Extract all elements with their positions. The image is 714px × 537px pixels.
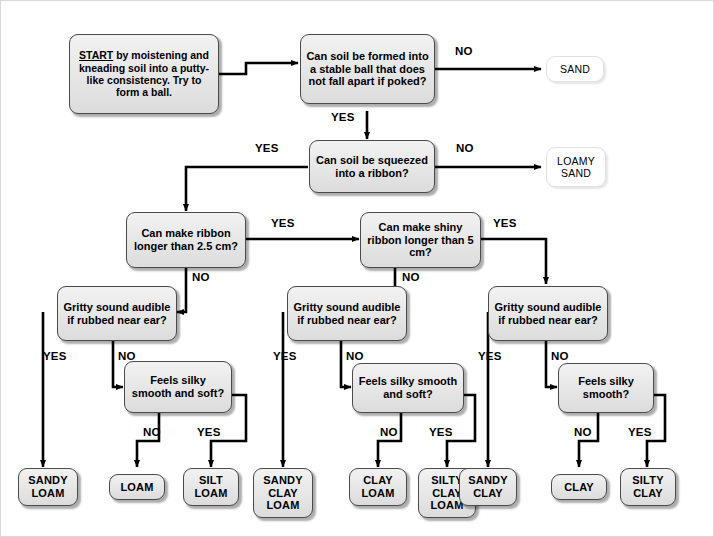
node-silky-mid-label: Feels silky smooth and soft?	[357, 375, 459, 401]
edge-label-silky-right-yes: YES	[628, 426, 652, 438]
node-can-form-ball[interactable]: Can soil be formed into a stable ball th…	[300, 34, 435, 104]
edge-label-ball-yes: YES	[331, 111, 355, 123]
node-start[interactable]: START by moistening and kneading soil in…	[69, 34, 219, 114]
flowchart-canvas: START by moistening and kneading soil in…	[0, 0, 714, 537]
terminal-clay-loam-label: CLAY LOAM	[354, 474, 402, 500]
node-silky-mid[interactable]: Feels silky smooth and soft?	[352, 363, 464, 413]
terminal-loam-label: LOAM	[120, 481, 153, 494]
terminal-clay[interactable]: CLAY	[551, 474, 607, 500]
edge-label-gritty-left-yes: YES	[43, 350, 67, 362]
edge-label-silky-right-no: NO	[574, 426, 592, 438]
node-shiny-ribbon-longer-5cm[interactable]: Can make shiny ribbon longer than 5 cm?	[360, 212, 481, 268]
node-can-form-ball-label: Can soil be formed into a stable ball th…	[305, 50, 430, 89]
terminal-sandy-clay-label: SANDY CLAY	[464, 474, 512, 500]
edge-label-gritty-left-no: NO	[118, 350, 136, 362]
terminal-silt-loam-label: SILT LOAM	[188, 474, 234, 500]
terminal-loamy-sand[interactable]: LOAMY SAND	[546, 147, 606, 187]
edge-label-gritty-right-no: NO	[551, 350, 569, 362]
edge-label-gritty-mid-no: NO	[346, 350, 364, 362]
node-ribbon-longer-2-5cm-label: Can make ribbon longer than 2.5 cm?	[131, 227, 241, 253]
terminal-clay-loam[interactable]: CLAY LOAM	[349, 468, 407, 506]
edge-label-ball-no: NO	[455, 45, 473, 57]
node-gritty-right[interactable]: Gritty sound audible if rubbed near ear?	[488, 286, 608, 341]
terminal-clay-label: CLAY	[564, 481, 594, 494]
edge-label-ribbon-no: NO	[456, 142, 474, 154]
node-silky-left[interactable]: Feels silky smooth and soft?	[124, 361, 232, 413]
terminal-sandy-clay-loam-label: SANDY CLAY LOAM	[258, 474, 308, 513]
node-can-squeeze-ribbon-label: Can soil be squeezed into a ribbon?	[314, 154, 430, 180]
edge-label-silky-left-no: NO	[143, 426, 161, 438]
node-start-text: START by moistening and kneading soil in…	[74, 49, 214, 99]
terminal-sand[interactable]: SAND	[546, 56, 604, 82]
terminal-sandy-clay[interactable]: SANDY CLAY	[459, 468, 517, 506]
edge-label-ribbon-yes: YES	[255, 142, 279, 154]
terminal-sand-label: SAND	[560, 63, 590, 75]
node-ribbon-longer-2-5cm[interactable]: Can make ribbon longer than 2.5 cm?	[126, 212, 246, 268]
terminal-loam[interactable]: LOAM	[109, 474, 165, 500]
node-silky-right[interactable]: Feels silky smooth?	[558, 363, 654, 413]
node-can-squeeze-ribbon[interactable]: Can soil be squeezed into a ribbon?	[309, 140, 435, 193]
edge-label-silky-left-yes: YES	[197, 426, 221, 438]
node-silky-right-label: Feels silky smooth?	[563, 375, 649, 401]
edge-label-silky-mid-yes: YES	[429, 426, 453, 438]
node-gritty-mid-label: Gritty sound audible if rubbed near ear?	[292, 301, 402, 327]
edge-label-gritty-right-yes: YES	[478, 350, 502, 362]
edge-label-silky-mid-no: NO	[380, 426, 398, 438]
edge-label-r5-no: NO	[402, 271, 420, 283]
edge-label-r5-yes: YES	[493, 217, 517, 229]
terminal-silty-clay-label: SILTY CLAY	[625, 474, 671, 500]
terminal-sandy-loam-label: SANDY LOAM	[23, 474, 73, 500]
terminal-silt-loam[interactable]: SILT LOAM	[183, 468, 239, 506]
node-gritty-left[interactable]: Gritty sound audible if rubbed near ear?	[57, 286, 177, 341]
node-gritty-left-label: Gritty sound audible if rubbed near ear?	[62, 301, 172, 327]
terminal-loamy-sand-label: LOAMY SAND	[551, 155, 601, 180]
edge-label-r25-no: NO	[192, 271, 210, 283]
terminal-sandy-clay-loam[interactable]: SANDY CLAY LOAM	[253, 468, 313, 518]
node-shiny-ribbon-longer-5cm-label: Can make shiny ribbon longer than 5 cm?	[365, 221, 476, 260]
edge-label-gritty-mid-yes: YES	[273, 350, 297, 362]
terminal-silty-clay[interactable]: SILTY CLAY	[620, 468, 676, 506]
node-gritty-right-label: Gritty sound audible if rubbed near ear?	[493, 301, 603, 327]
edge-label-r25-yes: YES	[271, 217, 295, 229]
terminal-sandy-loam[interactable]: SANDY LOAM	[18, 468, 78, 506]
node-silky-left-label: Feels silky smooth and soft?	[129, 374, 227, 400]
node-gritty-mid[interactable]: Gritty sound audible if rubbed near ear?	[287, 286, 407, 341]
